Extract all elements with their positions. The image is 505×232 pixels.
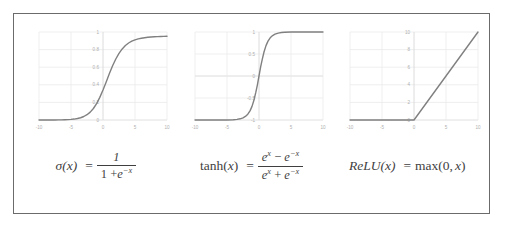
relu-chart: 10 8 6 4 2 0 -10 -5 0 5 10: [332, 24, 482, 137]
sigmoid-formula: σ(x) = 1 1 +e−x: [56, 143, 137, 189]
tanh-den-plus: +: [274, 168, 281, 182]
relu-name: ReLU: [349, 158, 381, 173]
svg-text:4: 4: [408, 82, 411, 87]
figure-frame: 1 0.8 0.6 0.4 0.2 0 -10 -5 0 5 10: [13, 13, 490, 214]
sigmoid-xtick-labels: -10 -5 0 5 10: [36, 125, 170, 130]
svg-text:0: 0: [252, 74, 255, 79]
tanh-equals: =: [242, 159, 258, 173]
panel-relu: 10 8 6 4 2 0 -10 -5 0 5 10: [329, 24, 485, 189]
sigmoid-den-exponent: −x: [123, 166, 132, 175]
tanh-num-minus: −: [274, 150, 281, 164]
tanh-den-exp2: −x: [290, 167, 299, 176]
svg-text:-10: -10: [36, 125, 43, 130]
svg-text:2: 2: [408, 100, 411, 105]
svg-text:10: 10: [320, 125, 326, 130]
tanh-num-exp1: x: [267, 149, 271, 158]
svg-text:-10: -10: [347, 125, 354, 130]
sigmoid-fraction: 1 1 +e−x: [97, 150, 136, 182]
panel-tanh: 1 0.5 0 -0.5 -1 -10 -5 0 5 10: [174, 24, 330, 189]
tanh-fraction: ex − e−x ex + e−x: [258, 149, 303, 183]
relu-gridlines: [350, 32, 478, 120]
svg-text:0: 0: [102, 125, 105, 130]
svg-text:1: 1: [252, 30, 255, 35]
sigmoid-gridlines: [39, 32, 167, 120]
panel-sigmoid: 1 0.8 0.6 0.4 0.2 0 -10 -5 0 5 10: [18, 24, 174, 189]
svg-text:5: 5: [134, 125, 137, 130]
sigmoid-chart: 1 0.8 0.6 0.4 0.2 0 -10 -5 0 5 10: [21, 24, 171, 137]
svg-text:0.8: 0.8: [92, 47, 99, 52]
sigmoid-close-paren: ): [73, 158, 78, 173]
svg-text:-5: -5: [69, 125, 74, 130]
svg-text:8: 8: [408, 47, 411, 52]
svg-text:10: 10: [405, 30, 411, 35]
svg-text:-1: -1: [250, 118, 255, 123]
svg-text:0: 0: [413, 125, 416, 130]
tanh-formula: tanh(x) = ex − e−x ex + e−x: [200, 143, 303, 189]
sigmoid-den-one: 1: [101, 167, 107, 181]
relu-max-zero: 0,: [443, 159, 453, 173]
tanh-num-exp2: −x: [290, 149, 299, 158]
tanh-name: tanh: [200, 158, 223, 173]
relu-max-var: x: [453, 159, 461, 173]
svg-text:-5: -5: [224, 125, 229, 130]
svg-text:10: 10: [164, 125, 170, 130]
relu-equals: =: [399, 159, 415, 173]
svg-text:0.5: 0.5: [248, 52, 255, 57]
tanh-plot-svg: 1 0.5 0 -0.5 -1 -10 -5 0 5 10: [177, 24, 327, 137]
sigmoid-equals: =: [81, 159, 97, 173]
svg-text:-10: -10: [191, 125, 198, 130]
relu-max-close-paren: ): [461, 159, 466, 173]
svg-text:5: 5: [289, 125, 292, 130]
relu-formula: ReLU(x) = max(0,x): [349, 143, 466, 189]
svg-text:0.4: 0.4: [92, 82, 99, 87]
sigmoid-numerator: 1: [109, 150, 123, 165]
tanh-den-exp1: x: [267, 167, 271, 176]
relu-close-paren: ): [391, 158, 396, 173]
sigmoid-plot-svg: 1 0.8 0.6 0.4 0.2 0 -10 -5 0 5 10: [21, 24, 171, 137]
svg-text:-5: -5: [380, 125, 385, 130]
tanh-chart: 1 0.5 0 -0.5 -1 -10 -5 0 5 10: [177, 24, 327, 137]
relu-plot-svg: 10 8 6 4 2 0 -10 -5 0 5 10: [332, 24, 482, 137]
svg-text:0: 0: [257, 125, 260, 130]
tanh-xtick-labels: -10 -5 0 5 10: [191, 125, 325, 130]
relu-xtick-labels: -10 -5 0 5 10: [347, 125, 481, 130]
panels-container: 1 0.8 0.6 0.4 0.2 0 -10 -5 0 5 10: [14, 14, 489, 213]
svg-text:10: 10: [476, 125, 482, 130]
svg-text:0.6: 0.6: [92, 65, 99, 70]
svg-text:1: 1: [96, 30, 99, 35]
svg-text:5: 5: [445, 125, 448, 130]
relu-max-name: max: [415, 159, 438, 173]
tanh-close-paren: ): [234, 158, 239, 173]
svg-text:0: 0: [96, 118, 99, 123]
relu-ytick-labels: 10 8 6 4 2 0: [405, 30, 411, 123]
svg-text:6: 6: [408, 65, 411, 70]
